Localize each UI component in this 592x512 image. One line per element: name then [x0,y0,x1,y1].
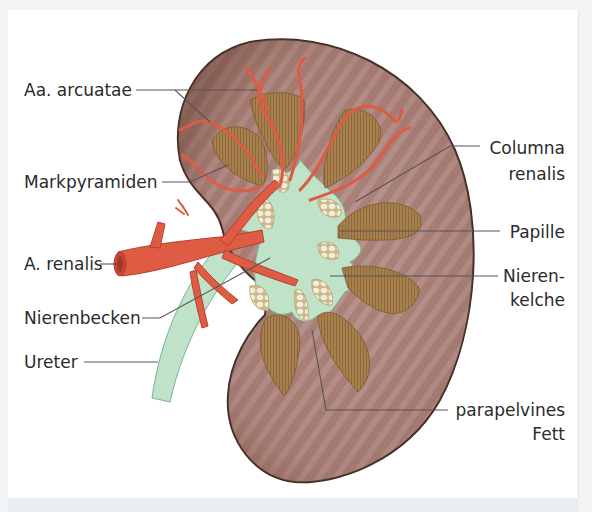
label-markpyramiden: Markpyramiden [24,172,158,192]
label-nierenkelche-line1: Nieren- [503,266,565,286]
label-nierenbecken: Nierenbecken [24,308,141,328]
label-ureter: Ureter [24,352,78,372]
label-parapelvines-fett-line2: Fett [532,424,565,444]
label-a-renalis: A. renalis [24,254,103,274]
label-columna-renalis-line1: Columna [489,138,565,158]
label-aa-arcuatae: Aa. arcuatae [24,80,132,100]
kidney-diagram: Aa. arcuatae Markpyramiden A. renalis Ni… [0,0,592,512]
label-papille: Papille [510,222,565,242]
label-columna-renalis-line2: renalis [508,164,565,184]
label-nierenkelche-line2: kelche [510,290,565,310]
label-parapelvines-fett-line1: parapelvines [456,400,566,420]
